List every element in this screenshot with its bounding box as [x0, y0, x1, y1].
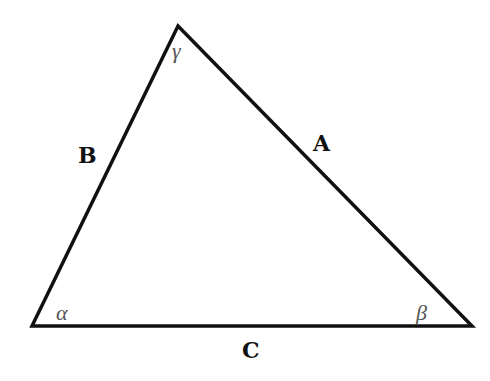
triangle-outline	[32, 26, 472, 326]
side-label-a: A	[312, 130, 331, 156]
triangle-diagram: A B C α β γ	[0, 0, 490, 381]
angle-label-beta: β	[415, 300, 427, 325]
angle-label-alpha: α	[56, 300, 68, 325]
side-label-b: B	[78, 142, 97, 168]
angle-label-gamma: γ	[172, 38, 182, 63]
side-label-c: C	[242, 337, 260, 363]
